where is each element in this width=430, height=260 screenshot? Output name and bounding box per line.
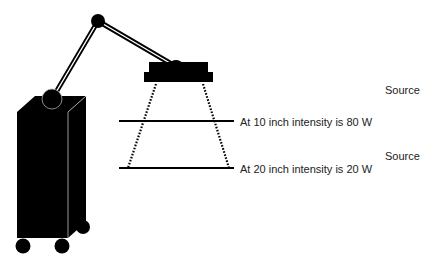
- lamp-cabinet: [17, 96, 86, 238]
- label-source-top: Source: [385, 84, 420, 96]
- lamp-diagram: [0, 0, 430, 260]
- label-source-bottom: Source: [385, 150, 420, 162]
- label-10-inch-intensity: At 10 inch intensity is 80 W: [240, 116, 372, 128]
- lamp-head: [144, 62, 213, 82]
- label-20-inch-intensity: At 20 inch intensity is 20 W: [240, 163, 372, 175]
- lamp-arm: [52, 21, 175, 99]
- base-joint: [42, 89, 62, 109]
- light-cone: [128, 84, 229, 168]
- elbow-joint: [91, 14, 105, 28]
